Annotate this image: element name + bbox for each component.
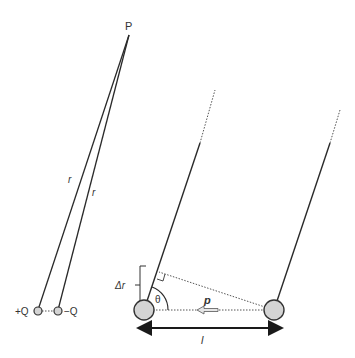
dipole-diagram: P r r +Q −Q θ p Δr [0, 0, 355, 358]
right-charge [264, 300, 284, 320]
r-line-minus [58, 35, 129, 310]
r-line-right-solid [274, 143, 330, 310]
far-field-panel: P r r +Q −Q [15, 20, 132, 317]
dipole-moment-arrow [197, 306, 218, 314]
r-line-left-dotted [200, 90, 215, 143]
r-line-left-solid [144, 143, 200, 310]
r-right-label: r [92, 187, 96, 198]
r-line-right-dotted [330, 110, 340, 143]
perpendicular-dotted [159, 272, 274, 310]
dipole-moment-label: p [203, 294, 211, 306]
delta-r-label: Δr [114, 280, 126, 291]
minus-charge [54, 307, 62, 315]
r-left-label: r [68, 174, 72, 185]
delta-r-bracket [140, 266, 146, 305]
left-charge [134, 300, 154, 320]
point-p-label: P [125, 20, 132, 32]
plus-charge [34, 307, 42, 315]
minus-q-label: −Q [64, 306, 78, 317]
right-angle-marker [157, 274, 165, 281]
plus-q-label: +Q [15, 306, 29, 317]
r-line-plus [38, 35, 129, 310]
near-dipole-panel: θ p Δr l [114, 90, 340, 346]
theta-label: θ [155, 294, 161, 305]
separation-label: l [201, 334, 204, 346]
